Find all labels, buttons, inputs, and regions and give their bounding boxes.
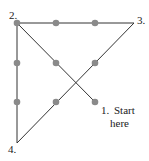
dot xyxy=(92,99,99,106)
dot xyxy=(14,60,21,67)
dot xyxy=(14,99,21,106)
dot xyxy=(53,99,60,106)
label-point-3: 3. xyxy=(137,14,145,26)
label-point-2: 2. xyxy=(9,9,17,21)
dot xyxy=(53,20,60,27)
dot xyxy=(92,20,99,27)
label-point-1: 1. xyxy=(101,104,109,116)
label-start: Start xyxy=(114,104,135,116)
nine-dots-diagram xyxy=(0,0,149,161)
label-here: here xyxy=(110,117,129,129)
dot xyxy=(53,60,60,67)
dot xyxy=(92,60,99,67)
label-point-4: 4. xyxy=(8,143,16,155)
